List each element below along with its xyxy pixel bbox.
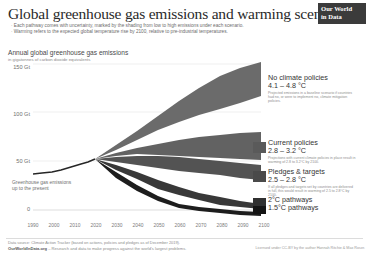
footer-owid-tagline: – Research and data to make progress aga…: [47, 246, 186, 251]
annotation-temp: 2.5 – 2.8 °C: [268, 176, 356, 184]
annotation-1-5c-pathways: 1.5°C pathways: [268, 204, 318, 212]
y-tick-0: 0: [4, 206, 30, 212]
legend-swatch-pledges-targets: [253, 171, 266, 182]
subtitle-line-2: · Warming refers to the expected global …: [11, 29, 311, 35]
x-tick-2000: 2000: [43, 223, 65, 228]
chart-container: Global greenhouse gas emissions and warm…: [0, 0, 369, 259]
footer-owid[interactable]: OurWorldInData.org – Research and data t…: [8, 246, 186, 251]
annotation-current-policies: Current policies 2.8 – 3.2 °C Projection…: [268, 139, 356, 164]
owid-logo-line-1: Our World: [321, 5, 366, 13]
annotation-temp: 2.8 – 3.2 °C: [268, 147, 356, 155]
footer-owid-brand: OurWorldInData.org: [8, 246, 47, 251]
annotation-title: 1.5°C pathways: [268, 204, 318, 212]
annotation-desc: Projected emissions in a baseline scenar…: [268, 91, 356, 104]
plot-area: [33, 62, 261, 220]
x-tick-2050: 2050: [148, 223, 170, 228]
x-tick-2090: 2090: [232, 223, 254, 228]
annotation-no-climate-policies: No climate policies 4.1 – 4.8 °C Project…: [268, 74, 356, 104]
historical-annotation-line-2: up to the present: [12, 186, 71, 192]
historical-annotation: Greenhouse gas emissions up to the prese…: [12, 180, 71, 192]
x-tick-2080: 2080: [211, 223, 233, 228]
page-title: Global greenhouse gas emissions and warm…: [8, 5, 350, 22]
legend-swatch-2c-pathways: [253, 198, 266, 206]
subtitle-block: · Each pathway comes with uncertainty, m…: [11, 23, 311, 36]
footer-source: Data source: Climate Action Tracker (bas…: [8, 240, 180, 245]
x-tick-1990: 1990: [22, 223, 44, 228]
y-tick-50: 50 Gt: [4, 158, 30, 164]
plot-svg: [33, 62, 261, 220]
owid-logo-line-2: in Data: [321, 13, 366, 21]
annotation-desc: Projections with current climate policie…: [268, 156, 356, 165]
x-tick-2020: 2020: [85, 223, 107, 228]
x-tick-2070: 2070: [190, 223, 212, 228]
y-tick-100: 100 Gt: [4, 111, 30, 117]
x-tick-2010: 2010: [64, 223, 86, 228]
owid-logo[interactable]: Our World in Data: [318, 3, 366, 24]
y-axis-title: Annual global greenhouse gas emissions: [8, 49, 128, 56]
annotation-pledges-targets: Pledges & targets 2.5 – 2.8 °C If all pl…: [268, 168, 356, 198]
x-tick-2100: 2100: [253, 223, 275, 228]
x-tick-2030: 2030: [106, 223, 128, 228]
y-tick-150: 150 Gt: [4, 64, 30, 70]
x-tick-2040: 2040: [127, 223, 149, 228]
annotation-temp: 4.1 – 4.8 °C: [268, 82, 356, 90]
legend-swatch-1-5c-pathways: [253, 206, 266, 214]
x-tick-2060: 2060: [169, 223, 191, 228]
footer-divider: [6, 238, 363, 239]
footer-license: Licensed under CC-BY by the author Hanna…: [255, 246, 365, 250]
legend-swatch-current-policies: [253, 142, 266, 153]
